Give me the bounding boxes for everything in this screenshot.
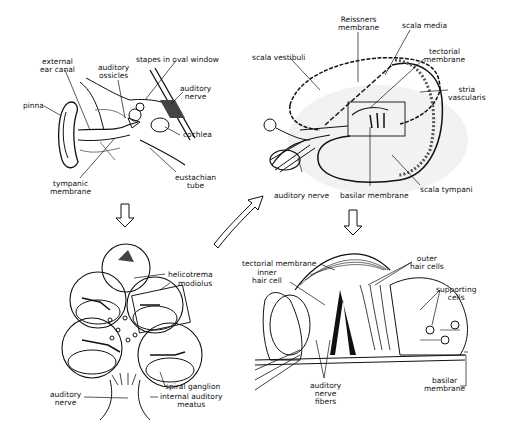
label-internal-auditory-meatus: internal auditory meatus — [160, 393, 222, 409]
label-scala-media: scala media — [402, 22, 447, 30]
label-modiolus: modiolus — [178, 280, 212, 288]
label-external-ear-canal: external ear canal — [40, 58, 75, 74]
label-supporting-cells: supporting cells — [436, 286, 476, 302]
label-pinna: pinna — [23, 102, 44, 110]
label-auditory-nerve-ear: auditory nerve — [180, 85, 211, 101]
label-reissners-membrane: Reissners membrane — [338, 16, 379, 32]
label-auditory-nerve-fibers: auditory nerve fibers — [310, 382, 341, 406]
label-scala-vestibuli: scala vestibuli — [252, 54, 305, 62]
organ-of-corti-drawing — [255, 254, 468, 390]
label-tectorial-membrane-corti: tectorial membrane — [242, 260, 316, 268]
label-helicotrema: helicotrema — [168, 271, 213, 279]
label-outer-hair-cells: outer hair cells — [410, 255, 444, 271]
label-spiral-ganglion: spiral ganglion — [165, 383, 220, 391]
ear-anatomy-drawing — [59, 68, 195, 168]
label-cochlea: cochlea — [183, 131, 212, 139]
arrow-down-right — [344, 210, 362, 235]
label-tectorial-membrane-top: tectorial membrane — [424, 48, 465, 64]
label-scala-tympani: scala tympani — [420, 186, 473, 194]
label-auditory-nerve-spiral: auditory nerve — [50, 391, 81, 407]
arrow-up-right — [214, 196, 263, 248]
label-auditory-nerve-cochlea: auditory nerve — [274, 192, 329, 200]
label-basilar-membrane-corti: basilar membrane — [424, 377, 465, 393]
label-eustachian-tube: eustachian tube — [175, 174, 216, 190]
label-tympanic-membrane: tympanic membrane — [50, 180, 91, 196]
cochlea-cross-section-drawing — [264, 58, 468, 195]
arrow-down-left — [116, 204, 134, 227]
label-inner-hair-cell: inner hair cell — [252, 269, 282, 285]
corti-leader-lines — [290, 262, 468, 386]
label-auditory-ossicles: auditory ossicles — [98, 64, 129, 80]
label-stapes-in-oval-window: stapes in oval window — [136, 56, 219, 64]
spiral-leader-lines — [84, 274, 170, 398]
label-stria-vascularis: stria vascularis — [448, 86, 486, 102]
label-basilar-membrane-top: basilar membrane — [340, 192, 409, 200]
